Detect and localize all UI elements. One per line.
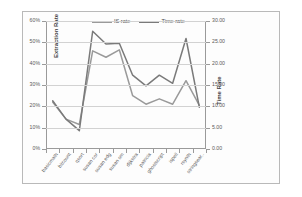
x-tick — [166, 149, 167, 153]
y-axis-right-tick-label: 10.00 — [212, 104, 225, 109]
gridline — [46, 106, 206, 107]
y-axis-right-tick-label: 5.00 — [212, 125, 222, 130]
y-axis-left-tick-label: 20% — [30, 104, 40, 109]
x-tick — [193, 149, 194, 153]
x-tick — [153, 149, 154, 153]
gridline — [46, 85, 206, 86]
y-tick-left — [42, 42, 46, 43]
y-tick-right — [206, 106, 210, 107]
y-tick-right — [206, 128, 210, 129]
x-tick — [139, 149, 140, 153]
x-tick — [99, 149, 100, 153]
y-tick-right — [206, 42, 210, 43]
x-tick — [46, 149, 47, 153]
y-axis-left-tick-label: 50% — [30, 40, 40, 45]
gridline — [46, 42, 206, 43]
y-axis-right-tick-label: 15.00 — [212, 82, 225, 87]
x-tick — [86, 149, 87, 153]
y-axis-left-tick-label: 0% — [33, 146, 41, 151]
y-axis-left-tick-label: 60% — [30, 18, 40, 23]
y-axis-right-tick-label: 30.00 — [212, 18, 225, 23]
y-axis-left-tick-label: 40% — [30, 61, 40, 66]
y-axis-left-tick-label: 10% — [30, 125, 40, 130]
y-axis-right-tick-label: 0.00 — [212, 146, 222, 151]
series-line-time-rate — [53, 31, 200, 130]
y-tick-left — [42, 21, 46, 22]
plot-area: 0%10%20%30%40%50%60% 0.005.0010.0015.002… — [46, 21, 206, 149]
gridline — [46, 64, 206, 65]
y-tick-left — [42, 85, 46, 86]
y-tick-right — [206, 64, 210, 65]
x-tick — [126, 149, 127, 153]
y-tick-right — [206, 21, 210, 22]
y-axis-right-tick-label: 20.00 — [212, 61, 225, 66]
y-tick-left — [42, 106, 46, 107]
gridline — [46, 21, 206, 22]
x-tick — [73, 149, 74, 153]
x-tick — [179, 149, 180, 153]
y-tick-right — [206, 85, 210, 86]
x-tick — [113, 149, 114, 153]
y-axis-left-tick-label: 30% — [30, 82, 40, 87]
x-tick — [59, 149, 60, 153]
y-tick-left — [42, 64, 46, 65]
x-tick — [206, 149, 207, 153]
y-axis-right-tick-label: 25.00 — [212, 40, 225, 45]
y-tick-left — [42, 128, 46, 129]
gridline — [46, 128, 206, 129]
